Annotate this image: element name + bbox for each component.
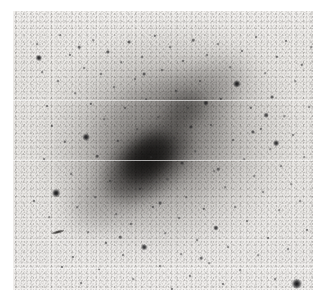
star <box>142 72 146 76</box>
scan-line <box>13 160 313 161</box>
star <box>76 206 79 209</box>
astronomy-figure <box>0 0 329 295</box>
star <box>92 39 95 42</box>
star <box>216 167 220 171</box>
star <box>208 262 211 265</box>
star <box>115 213 118 216</box>
star <box>113 86 116 89</box>
star <box>80 282 83 285</box>
star <box>180 161 184 165</box>
star <box>87 231 90 234</box>
star <box>213 170 216 173</box>
star <box>280 165 283 168</box>
star <box>150 156 153 159</box>
star <box>83 134 90 141</box>
star <box>126 169 129 172</box>
star <box>141 244 147 250</box>
star <box>234 206 237 209</box>
star <box>141 56 144 59</box>
star <box>217 43 220 46</box>
star <box>46 105 49 108</box>
star <box>283 115 286 118</box>
star <box>253 175 256 178</box>
star <box>270 95 274 99</box>
star <box>255 36 258 39</box>
star <box>173 137 176 140</box>
scan-line <box>13 268 313 269</box>
emulsion-grain-fine <box>13 11 313 290</box>
star <box>303 156 306 159</box>
star <box>159 265 162 268</box>
star <box>77 45 81 49</box>
star <box>122 254 125 257</box>
star <box>118 235 122 239</box>
star <box>178 217 181 220</box>
star <box>83 67 86 70</box>
star <box>41 71 44 74</box>
star <box>199 256 203 260</box>
star <box>52 189 60 197</box>
star <box>294 80 297 83</box>
star <box>187 107 190 110</box>
star <box>191 38 195 42</box>
scan-line <box>13 100 313 101</box>
star <box>94 196 97 199</box>
star <box>95 154 99 158</box>
star <box>36 43 39 46</box>
star <box>180 253 183 256</box>
star <box>257 254 260 257</box>
star <box>227 246 230 249</box>
star <box>136 128 139 131</box>
star <box>170 287 173 290</box>
star <box>127 40 131 44</box>
star <box>194 150 197 153</box>
star <box>59 34 62 37</box>
star <box>166 178 169 181</box>
star <box>269 148 272 151</box>
star <box>224 186 227 189</box>
star <box>308 106 311 109</box>
star <box>196 239 199 242</box>
star <box>169 46 172 49</box>
star <box>310 46 313 49</box>
star <box>264 113 269 118</box>
star <box>206 54 209 57</box>
star <box>299 200 302 203</box>
star <box>103 118 106 121</box>
star <box>164 232 167 235</box>
star <box>287 248 290 251</box>
star <box>57 80 60 83</box>
star <box>264 72 267 75</box>
star <box>229 66 232 69</box>
star <box>70 173 73 176</box>
star <box>290 183 293 186</box>
star <box>157 116 160 119</box>
star <box>132 278 135 281</box>
star <box>246 220 249 223</box>
star <box>74 92 77 95</box>
star <box>262 191 265 194</box>
star <box>48 216 51 219</box>
star <box>274 278 277 281</box>
star <box>134 78 137 81</box>
star <box>158 201 162 205</box>
star <box>278 209 281 212</box>
photographic-plate <box>13 11 313 290</box>
star <box>239 269 242 272</box>
star <box>273 140 279 146</box>
star <box>185 196 188 199</box>
star <box>312 259 313 262</box>
star <box>120 61 123 64</box>
